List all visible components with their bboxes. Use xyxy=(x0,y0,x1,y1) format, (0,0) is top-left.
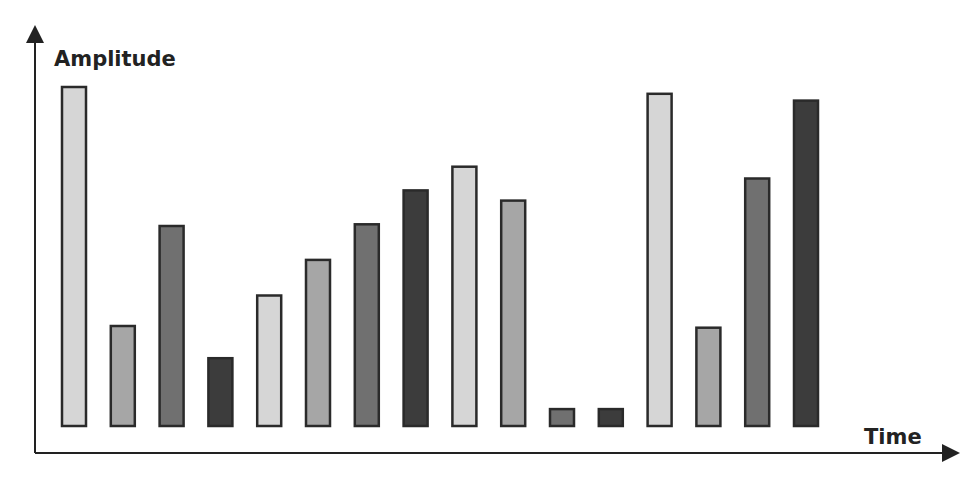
y-axis-arrow-icon xyxy=(26,25,44,43)
bar-13 xyxy=(648,94,672,426)
bar-12 xyxy=(599,409,623,426)
y-axis-label: Amplitude xyxy=(54,47,176,71)
bar-6 xyxy=(306,260,330,426)
bar-15 xyxy=(745,179,769,427)
bar-10 xyxy=(501,201,525,426)
bars-group xyxy=(62,87,818,426)
x-axis-arrow-icon xyxy=(942,444,960,462)
x-axis-label: Time xyxy=(864,425,922,449)
bar-8 xyxy=(404,190,428,426)
bar-2 xyxy=(111,326,135,426)
bar-chart: Amplitude Time xyxy=(0,0,979,479)
bar-9 xyxy=(452,167,476,426)
bar-5 xyxy=(257,296,281,427)
bar-14 xyxy=(696,328,720,426)
bar-1 xyxy=(62,87,86,426)
bar-4 xyxy=(208,358,232,426)
bar-3 xyxy=(160,226,184,426)
bar-11 xyxy=(550,409,574,426)
bar-7 xyxy=(355,224,379,426)
bar-16 xyxy=(794,101,818,426)
